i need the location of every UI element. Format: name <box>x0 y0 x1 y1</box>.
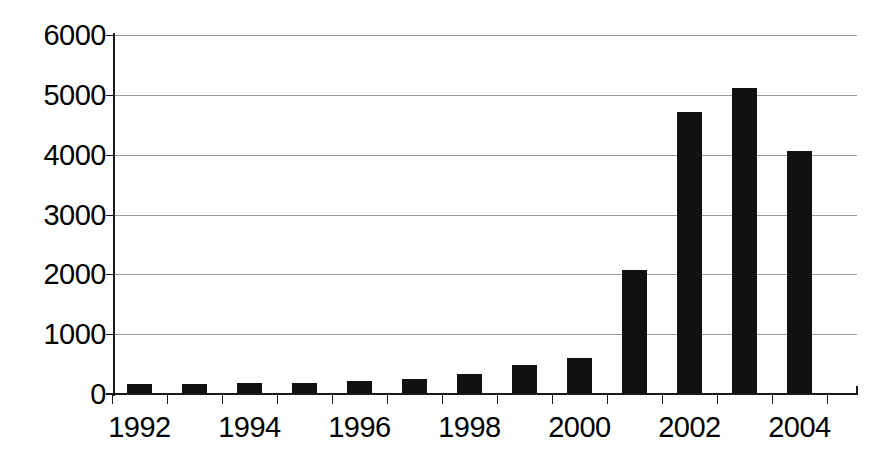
y-tick-mark-4000 <box>106 155 114 156</box>
y-tick-mark-3000 <box>106 215 114 216</box>
x-tick-mark-8 <box>552 395 553 404</box>
gridline-6000 <box>114 35 857 36</box>
bar-chart: 6000 5000 4000 3000 2000 1000 0 1992 199… <box>0 0 888 469</box>
bar-2003 <box>732 88 757 394</box>
x-tick-mark-7 <box>497 395 498 404</box>
y-tick-label-3000: 3000 <box>14 201 106 230</box>
x-tick-mark-4 <box>332 395 333 404</box>
x-axis-end-tick <box>856 386 858 395</box>
x-tick-mark-11 <box>717 395 718 404</box>
bar-2004 <box>787 151 812 394</box>
x-tick-mark-3 <box>277 395 278 404</box>
x-tick-label-1996: 1996 <box>315 411 405 443</box>
y-tick-label-0: 0 <box>14 380 106 409</box>
y-tick-label-1000: 1000 <box>14 320 106 349</box>
x-tick-label-1992: 1992 <box>95 411 185 443</box>
x-tick-mark-9 <box>607 395 608 404</box>
x-tick-label-1994: 1994 <box>205 411 295 443</box>
x-tick-mark-10 <box>662 395 663 404</box>
x-tick-label-1998: 1998 <box>425 411 515 443</box>
y-tick-mark-1000 <box>106 334 114 335</box>
bar-2002 <box>677 112 702 394</box>
x-tick-mark-6 <box>442 395 443 404</box>
y-tick-label-6000: 6000 <box>14 21 106 50</box>
y-tick-mark-6000 <box>106 35 114 36</box>
x-tick-label-2002: 2002 <box>645 411 735 443</box>
y-axis-tick-labels: 6000 5000 4000 3000 2000 1000 0 <box>0 0 106 469</box>
bar-2000 <box>567 358 592 395</box>
y-tick-label-2000: 2000 <box>14 260 106 289</box>
bar-1999 <box>512 365 537 394</box>
y-tick-label-4000: 4000 <box>14 141 106 170</box>
bar-2001 <box>622 270 647 394</box>
x-tick-mark-13 <box>827 395 828 404</box>
y-tick-mark-2000 <box>106 274 114 275</box>
y-tick-label-5000: 5000 <box>14 81 106 110</box>
bar-1998 <box>457 374 482 394</box>
y-tick-mark-5000 <box>106 95 114 96</box>
x-tick-mark-1 <box>167 395 168 404</box>
x-tick-label-2000: 2000 <box>535 411 625 443</box>
x-tick-mark-2 <box>222 395 223 404</box>
x-tick-mark-5 <box>387 395 388 404</box>
x-tick-label-2004: 2004 <box>755 411 845 443</box>
x-tick-mark-12 <box>772 395 773 404</box>
x-tick-mark-0 <box>112 395 113 404</box>
x-axis-line <box>106 393 857 395</box>
bar-1997 <box>402 379 427 394</box>
plot-area <box>114 35 857 394</box>
